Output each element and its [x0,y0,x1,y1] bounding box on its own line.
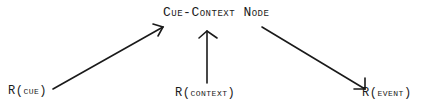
arrow-context-to-node [199,31,217,83]
cue-context-node-label: Cue-Context Node [163,5,269,20]
r-cue-label: R(cue) [8,84,47,98]
diagram-canvas: Cue-Context Node R(cue) R(context) R(eve… [0,0,422,107]
r-event-label: R(event) [362,86,412,100]
r-context-label: R(context) [175,86,235,100]
arrow-cue-to-node [53,24,163,89]
arrow-node-to-event [262,27,365,89]
